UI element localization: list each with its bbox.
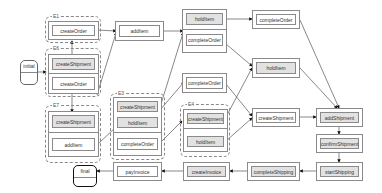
e6-node[interactable]: createShipment createOrder [48, 54, 99, 94]
completeshipping-label: completeShipping [251, 166, 296, 177]
e3-createshipment-label: createShipment [117, 101, 158, 112]
confirmshipment-label: confirmShipment [320, 138, 359, 149]
completeshipping-node[interactable]: completeShipping [247, 162, 300, 181]
startshipping-node[interactable]: startShipping [316, 162, 363, 181]
createshipment-right-node[interactable]: createShipment [252, 108, 300, 127]
e7-node[interactable]: createShipment addItem [48, 111, 99, 157]
holditem-right-node[interactable]: holdItem [252, 58, 300, 78]
e7-createshipment-label: createShipment [52, 115, 95, 128]
payinvoice-node[interactable]: payInvoice [113, 162, 162, 181]
createshipment-right-label: createShipment [256, 112, 296, 123]
startshipping-label: startShipping [320, 166, 359, 177]
completeorder-top-node[interactable]: completeOrder [252, 10, 300, 29]
e3-node[interactable]: createShipment holdItem completeOrder [113, 97, 162, 156]
e7-additem-label: addItem [52, 138, 95, 151]
group-e1-label: E1 [52, 13, 60, 19]
e3-holditem-label: holdItem [117, 117, 158, 128]
e3-completeorder-label: completeOrder [117, 138, 158, 150]
payinvoice-label: payInvoice [117, 166, 158, 177]
e6-createshipment-label: createShipment [52, 58, 95, 70]
group-e3-label: E3 [117, 90, 125, 96]
completeorder-top-label: completeOrder [256, 14, 296, 25]
completeorder-mid-node[interactable]: completeOrder [182, 73, 227, 93]
e1-createorder-node[interactable]: createOrder [48, 21, 99, 40]
initial-label: initial [21, 63, 37, 69]
e4-holditem-label: holdItem [187, 136, 224, 147]
combo-completeorder-label: completeOrder [186, 34, 223, 46]
process-diagram: initial E1 createOrder E6 createShipment… [0, 0, 382, 193]
confirmshipment-node[interactable]: confirmShipment [316, 134, 363, 153]
group-e6-label: E6 [52, 45, 60, 51]
additem-node[interactable]: addItem [115, 21, 164, 41]
createinvoice-node[interactable]: createInvoice [183, 162, 230, 181]
final-label: final [74, 168, 96, 174]
e4-createshipment-label: createShipment [187, 113, 224, 124]
additem-label: addItem [119, 25, 160, 37]
e1-createorder-label: createOrder [52, 25, 95, 36]
holditem-right-label: holdItem [256, 62, 296, 74]
e6-createorder-label: createOrder [52, 77, 95, 90]
holditem-completeorder-node[interactable]: holdItem completeOrder [182, 9, 227, 53]
addshipment-label: addShipment [320, 112, 359, 123]
addshipment-node[interactable]: addShipment [316, 108, 363, 127]
combo-holditem-label: holdItem [186, 13, 223, 25]
initial-state: initial [20, 60, 38, 85]
createinvoice-label: createInvoice [187, 166, 226, 177]
group-e4-label: E4 [187, 101, 195, 107]
final-state: final [73, 165, 97, 187]
e4-node[interactable]: createShipment holdItem [183, 109, 228, 152]
completeorder-mid-label: completeOrder [186, 77, 223, 89]
group-e7-label: E7 [52, 102, 60, 108]
